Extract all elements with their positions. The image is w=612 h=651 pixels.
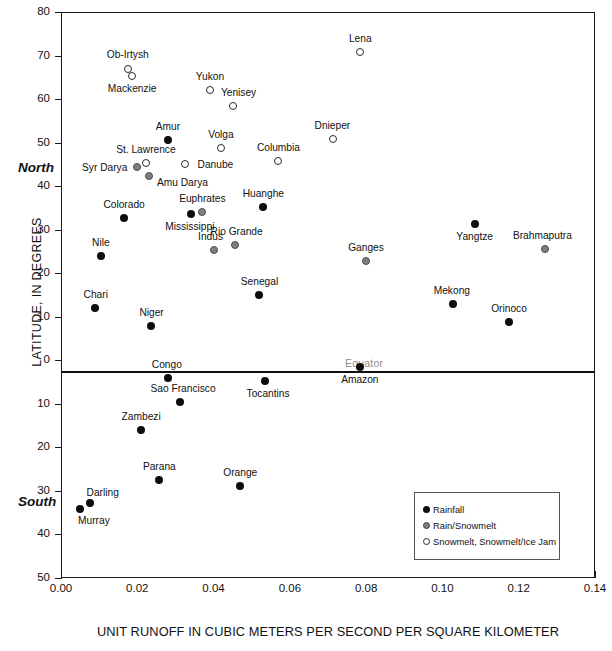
legend-item[interactable]: Rain/Snowmelt — [423, 520, 551, 531]
y-tick-label: 50 — [16, 136, 50, 148]
data-point[interactable] — [97, 252, 105, 260]
data-point[interactable] — [356, 363, 364, 371]
x-tick-label: 0.04 — [184, 582, 244, 594]
data-point[interactable] — [255, 291, 263, 299]
data-point-label: Euphrates — [179, 194, 225, 204]
y-tick-label: 70 — [16, 49, 50, 61]
data-point-label: Parana — [143, 462, 176, 472]
data-point-label: Columbia — [257, 143, 300, 153]
x-tick-label: 0.00 — [31, 582, 91, 594]
y-tick — [55, 578, 62, 579]
data-point-label: Amazon — [341, 375, 378, 385]
legend-marker-icon — [423, 506, 430, 513]
hemisphere-label-south: South — [18, 494, 56, 509]
legend-item[interactable]: Snowmelt, Snowmelt/Ice Jam — [423, 536, 551, 547]
x-tick-label: 0.06 — [260, 582, 320, 594]
legend-marker-icon — [423, 538, 430, 545]
data-point[interactable] — [133, 163, 141, 171]
data-point-label: Chari — [84, 290, 108, 300]
data-point-label: Amur — [156, 122, 180, 132]
data-point-label: Huanghe — [243, 189, 284, 199]
data-point-label: Ob-Irtysh — [107, 50, 149, 60]
data-point-label: Danube — [198, 160, 234, 170]
data-point-label: Nile — [92, 238, 110, 248]
equator-label: Equator — [345, 357, 383, 369]
data-point[interactable] — [86, 499, 94, 507]
data-point-label: Mackenzie — [108, 84, 157, 94]
x-tick — [595, 571, 596, 578]
data-point[interactable] — [164, 374, 172, 382]
x-tick-label: 0.02 — [107, 582, 167, 594]
data-point-label: Amu Darya — [157, 178, 208, 188]
data-point-label: Orange — [223, 468, 257, 478]
legend: RainfallRain/SnowmeltSnowmelt, Snowmelt/… — [414, 492, 560, 560]
legend-label: Rainfall — [433, 504, 464, 515]
x-tick-label: 0.14 — [565, 582, 612, 594]
data-point[interactable] — [210, 246, 218, 254]
data-point[interactable] — [91, 304, 99, 312]
data-point[interactable] — [471, 220, 479, 228]
data-point-label: Congo — [152, 360, 182, 370]
x-tick-label: 0.08 — [336, 582, 396, 594]
data-point-label: Indus — [198, 232, 223, 242]
data-point-label: Brahmaputra — [513, 231, 572, 241]
data-point-label: Senegal — [241, 277, 278, 287]
y-tick-label: 60 — [16, 92, 50, 104]
y-axis-title: LATITUDE, IN DEGREES — [30, 162, 44, 422]
data-point-label: Zambezi — [122, 412, 161, 422]
data-point[interactable] — [229, 102, 237, 110]
data-point-label: Orinoco — [491, 304, 527, 314]
data-point-label: Volga — [208, 130, 234, 140]
data-point-label: St. Lawrence — [116, 145, 175, 155]
data-point[interactable] — [164, 136, 172, 144]
data-point-label: Lena — [349, 34, 372, 44]
data-point-label: Ganges — [348, 243, 384, 253]
data-point-label: Yukon — [196, 72, 224, 82]
legend-label: Snowmelt, Snowmelt/Ice Jam — [433, 536, 556, 547]
data-point[interactable] — [449, 300, 457, 308]
data-point-label: Yenisey — [221, 88, 256, 98]
data-point[interactable] — [231, 241, 239, 249]
data-point-label: Tocantins — [247, 389, 290, 399]
data-point-label: Dnieper — [315, 121, 351, 131]
x-tick-label: 0.12 — [489, 582, 549, 594]
data-point[interactable] — [217, 144, 225, 152]
data-point-label: Colorado — [103, 200, 144, 210]
x-axis-title: UNIT RUNOFF IN CUBIC METERS PER SECOND P… — [61, 624, 595, 639]
data-point[interactable] — [142, 159, 150, 167]
data-point[interactable] — [329, 135, 337, 143]
runoff-latitude-scatter-figure: 807060504030201001020304050 0.000.020.04… — [0, 0, 612, 651]
equator-line — [61, 371, 595, 373]
y-tick-label: 40 — [16, 527, 50, 539]
data-point-label: Yangtze — [456, 232, 493, 242]
data-point-label: Niger — [139, 308, 163, 318]
data-point-label: Mekong — [434, 286, 470, 296]
legend-item[interactable]: Rainfall — [423, 504, 551, 515]
data-point[interactable] — [181, 160, 189, 168]
x-tick-label: 0.10 — [412, 582, 472, 594]
data-point-label: Sao Francisco — [151, 384, 216, 394]
data-point-label: Murray — [78, 516, 110, 526]
y-tick-label: 80 — [16, 5, 50, 17]
legend-marker-icon — [423, 522, 430, 529]
y-tick-label: 20 — [16, 440, 50, 452]
data-point-label: Syr Darya — [82, 163, 127, 173]
data-point-label: Darling — [87, 488, 119, 498]
legend-label: Rain/Snowmelt — [433, 520, 496, 531]
